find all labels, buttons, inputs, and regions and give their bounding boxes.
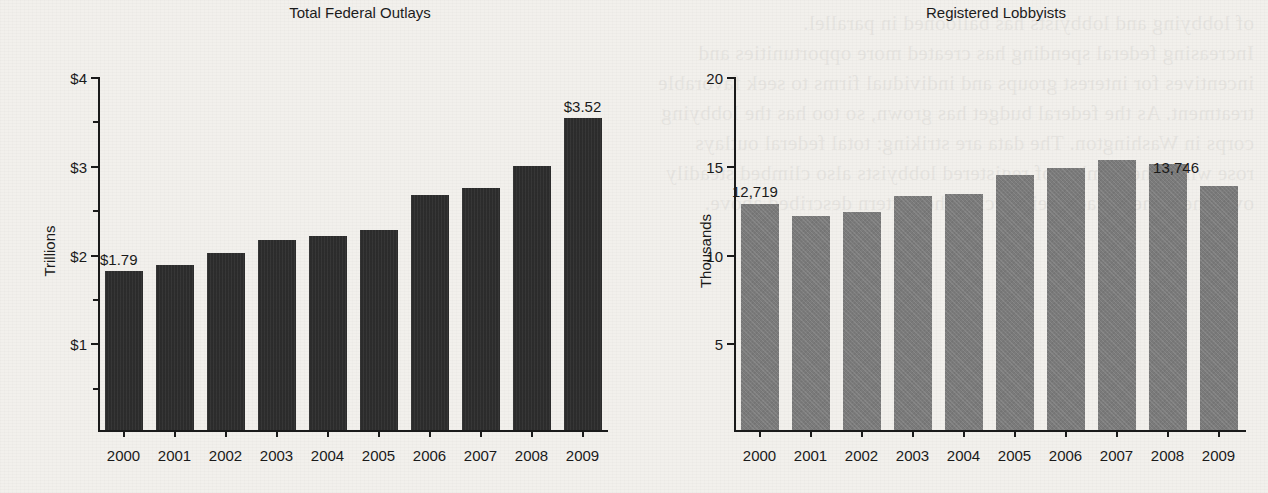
bar[interactable] [741, 204, 779, 430]
bar[interactable] [1098, 160, 1136, 431]
y-axis-tick-label: $1 [70, 336, 87, 353]
bar-group[interactable]: 2006 [404, 75, 455, 430]
x-axis-tick [327, 430, 329, 437]
bar[interactable] [462, 188, 500, 430]
bar-group[interactable]: 2005 [989, 75, 1040, 430]
chart-panel-registered-lobbyists: Registered Lobbyists Thousands 200012,71… [634, 0, 1268, 493]
x-axis-tick-label: 2003 [260, 447, 293, 464]
x-axis-tick-label: 2009 [566, 447, 599, 464]
bar-group[interactable]: 2002 [836, 75, 887, 430]
y-axis-tick-label: $4 [70, 70, 87, 87]
bar-value-label: 13,746 [1153, 159, 1199, 176]
y-axis-minor-tick [93, 388, 99, 390]
bar-value-label: $3.52 [564, 98, 602, 115]
bar[interactable] [945, 194, 983, 430]
x-axis-tick [861, 430, 863, 437]
y-axis-tick [91, 77, 99, 79]
y-axis-tick [91, 255, 99, 257]
bar-group[interactable]: 200012,719 [734, 75, 785, 430]
bar[interactable] [564, 118, 602, 430]
bar-series-right: 200012,719200120022003200420052006200720… [734, 75, 1244, 430]
bar-group[interactable]: 2007 [1091, 75, 1142, 430]
x-axis-tick [1167, 430, 1169, 437]
x-axis-tick-label: 2007 [464, 447, 497, 464]
y-axis-tick-label: 15 [706, 158, 723, 175]
x-axis-tick [1065, 430, 1067, 437]
x-axis-tick-label: 2009 [1202, 447, 1235, 464]
x-axis-tick [480, 430, 482, 437]
bar-series-left: 2000$1.792001200220032004200520062007200… [98, 75, 608, 430]
x-axis-tick [378, 430, 380, 437]
y-axis-tick-label: 5 [715, 336, 723, 353]
y-axis-minor-tick [93, 210, 99, 212]
bar-group[interactable]: 2009$3.52 [557, 75, 608, 430]
x-axis-tick [810, 430, 812, 437]
y-axis-tick [727, 77, 735, 79]
x-axis-tick-label: 2008 [515, 447, 548, 464]
bar-group[interactable]: 2008 [1142, 75, 1193, 430]
chart-panel-total-federal-outlays: Total Federal Outlays Trillions 2000$1.7… [0, 0, 634, 493]
y-axis-minor-tick [93, 299, 99, 301]
y-axis-tick-label: 20 [706, 70, 723, 87]
bar[interactable] [1149, 164, 1187, 430]
y-axis-tick-label: $3 [70, 158, 87, 175]
y-axis-tick [91, 166, 99, 168]
x-axis-tick-label: 2004 [947, 447, 980, 464]
bar-group[interactable]: 2007 [455, 75, 506, 430]
bar-group[interactable]: 2006 [1040, 75, 1091, 430]
x-axis-tick-label: 2005 [998, 447, 1031, 464]
bar-group[interactable]: 2000$1.79 [98, 75, 149, 430]
x-axis-tick [963, 430, 965, 437]
bar[interactable] [258, 240, 296, 430]
x-axis-tick-label: 2008 [1151, 447, 1184, 464]
bar-group[interactable]: 2004 [302, 75, 353, 430]
x-axis-tick [531, 430, 533, 437]
bar[interactable] [1200, 186, 1238, 430]
bar[interactable] [996, 175, 1034, 430]
bar[interactable] [1047, 168, 1085, 430]
bar[interactable] [105, 271, 143, 430]
bar-group[interactable]: 2005 [353, 75, 404, 430]
bar[interactable] [207, 253, 245, 430]
bar[interactable] [411, 195, 449, 430]
x-axis-tick [1218, 430, 1220, 437]
x-axis-tick-label: 2000 [743, 447, 776, 464]
bar-group[interactable]: 2004 [938, 75, 989, 430]
bar[interactable] [792, 216, 830, 430]
x-axis-tick [1116, 430, 1118, 437]
x-axis-tick-label: 2000 [107, 447, 140, 464]
bar-group[interactable]: 2001 [785, 75, 836, 430]
x-axis-tick [225, 430, 227, 437]
x-axis-tick [582, 430, 584, 437]
x-axis-tick [123, 430, 125, 437]
bar[interactable] [843, 212, 881, 430]
bar[interactable] [309, 236, 347, 430]
bar-group[interactable]: 2008 [506, 75, 557, 430]
bar-group[interactable]: 200913,746 [1193, 75, 1244, 430]
x-axis-tick-label: 2004 [311, 447, 344, 464]
x-axis-tick-label: 2001 [158, 447, 191, 464]
y-axis-tick [727, 166, 735, 168]
bar[interactable] [360, 230, 398, 430]
x-axis-tick [276, 430, 278, 437]
y-axis-tick-label: $2 [70, 247, 87, 264]
y-axis-minor-tick [93, 121, 99, 123]
chart-title-right: Registered Lobbyists [634, 4, 1268, 21]
bar[interactable] [156, 265, 194, 430]
bar-group[interactable]: 2003 [887, 75, 938, 430]
bar-value-label: $1.79 [100, 251, 138, 268]
bar-group[interactable]: 2002 [200, 75, 251, 430]
bar[interactable] [894, 196, 932, 430]
x-axis-tick-label: 2007 [1100, 447, 1133, 464]
x-axis-tick-label: 2006 [1049, 447, 1082, 464]
x-axis-tick [429, 430, 431, 437]
bar-group[interactable]: 2001 [149, 75, 200, 430]
bar[interactable] [513, 166, 551, 430]
plot-area-right: Thousands 200012,71920012002200320042005… [734, 70, 1244, 432]
bar-value-label: 12,719 [732, 183, 778, 200]
x-axis-tick-label: 2005 [362, 447, 395, 464]
chart-title-left: Total Federal Outlays [0, 4, 634, 21]
y-axis-tick-label: 10 [706, 247, 723, 264]
bar-group[interactable]: 2003 [251, 75, 302, 430]
x-axis-tick-label: 2006 [413, 447, 446, 464]
